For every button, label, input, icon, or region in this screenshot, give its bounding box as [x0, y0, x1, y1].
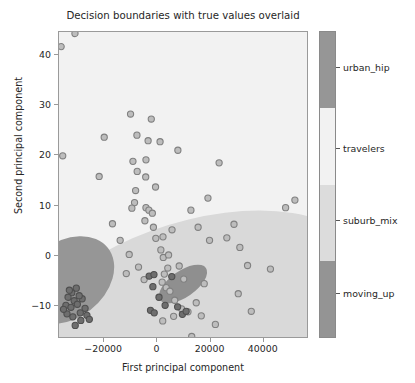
scatter-point: [165, 265, 171, 271]
y-tick-mark: [54, 255, 58, 256]
scatter-point: [248, 308, 254, 314]
scatter-point-dark: [169, 273, 175, 279]
scatter-point: [123, 270, 129, 276]
scatter-point: [231, 221, 237, 227]
scatter-point: [135, 264, 141, 270]
scatter-point: [157, 139, 163, 145]
y-tick-label: 40: [39, 48, 51, 59]
y-tick-mark: [54, 54, 58, 55]
x-tick-label: −20000: [84, 343, 122, 354]
page-title: Decision boundaries with true values ove…: [58, 10, 308, 21]
scatter-point-dark: [77, 310, 83, 316]
scatter-point-dark: [156, 294, 162, 300]
scatter-point: [149, 210, 155, 216]
x-tick-mark: [210, 338, 211, 342]
scatter-point: [283, 205, 289, 211]
scatter-point-dark: [78, 317, 84, 323]
scatter-point: [126, 251, 132, 257]
y-tick-label: 20: [39, 149, 51, 160]
x-tick-label: 0: [153, 343, 159, 354]
scatter-point: [172, 297, 178, 303]
scatter-point-dark: [175, 304, 181, 310]
colorbar-segment-suburb_mix[interactable]: [320, 185, 335, 262]
plot-area[interactable]: [58, 31, 308, 338]
scatter-point: [171, 313, 177, 319]
scatter-point: [160, 318, 166, 324]
scatter-point-dark: [150, 284, 156, 290]
scatter-point-dark: [72, 322, 78, 328]
scatter-point: [129, 205, 135, 211]
x-tick-label: 40000: [248, 343, 278, 354]
scatter-point-dark: [151, 310, 157, 316]
scatter-point: [167, 288, 173, 294]
scatter-point: [60, 153, 66, 159]
scatter-point: [134, 132, 140, 138]
y-tick-mark: [54, 205, 58, 206]
x-tick-mark: [263, 338, 264, 342]
scatter-point: [195, 224, 201, 230]
colorbar-segment-travelers[interactable]: [320, 108, 335, 185]
scatter-point: [143, 157, 149, 163]
scatter-point-dark: [70, 314, 76, 320]
scatter-point: [169, 227, 175, 233]
scatter-points-layer: [59, 32, 308, 338]
scatter-point-dark: [68, 304, 74, 310]
scatter-point: [224, 235, 230, 241]
scatter-point: [165, 252, 171, 258]
y-tick-mark: [54, 104, 58, 105]
y-tick-label: 10: [39, 199, 51, 210]
y-tick-label: 30: [39, 98, 51, 109]
scatter-point: [152, 184, 158, 190]
scatter-point: [130, 158, 136, 164]
scatter-point: [181, 276, 187, 282]
scatter-point-dark: [162, 302, 168, 308]
scatter-point-dark: [66, 287, 72, 293]
y-tick-mark: [54, 154, 58, 155]
scatter-point: [127, 111, 133, 117]
colorbar-tick-label-urban_hip: urban_hip: [343, 61, 390, 72]
scatter-point: [160, 234, 166, 240]
y-tick-label: −10: [31, 300, 51, 311]
scatter-point: [148, 116, 154, 122]
scatter-point-dark: [86, 316, 92, 322]
y-tick-mark: [54, 305, 58, 306]
scatter-point: [237, 244, 243, 250]
scatter-point: [206, 237, 212, 243]
scatter-point: [212, 321, 218, 327]
scatter-point: [161, 271, 167, 277]
scatter-point: [133, 187, 139, 193]
scatter-point-dark: [183, 308, 189, 314]
scatter-point-dark: [60, 306, 66, 312]
colorbar-segment-moving_up[interactable]: [320, 261, 335, 338]
scatter-point: [153, 235, 159, 241]
scatter-point: [96, 173, 102, 179]
scatter-point: [175, 147, 181, 153]
scatter-point: [201, 281, 207, 287]
x-tick-mark: [156, 338, 157, 342]
scatter-point: [145, 138, 151, 144]
colorbar-tick-mark: [336, 220, 340, 221]
colorbar-segment-urban_hip[interactable]: [320, 32, 335, 109]
y-tick-label: 0: [45, 249, 51, 260]
scatter-point: [244, 262, 250, 268]
x-axis-label: First principal component: [58, 362, 308, 373]
scatter-point-dark: [76, 293, 82, 299]
colorbar-tick-mark: [336, 67, 340, 68]
scatter-point-dark: [65, 294, 71, 300]
scatter-point: [235, 291, 241, 297]
colorbar-tick-label-moving_up: moving_up: [343, 287, 395, 298]
scatter-point: [134, 168, 140, 174]
scatter-point: [72, 32, 78, 37]
colorbar-tick-mark: [336, 293, 340, 294]
scatter-point: [150, 224, 156, 230]
scatter-point: [189, 333, 195, 338]
colorbar[interactable]: [319, 31, 336, 338]
colorbar-tick-mark: [336, 148, 340, 149]
scatter-point: [267, 266, 273, 272]
scatter-point: [158, 247, 164, 253]
scatter-point: [292, 197, 298, 203]
scatter-point: [117, 237, 123, 243]
figure-canvas: Decision boundaries with true values ove…: [0, 0, 415, 383]
scatter-point: [59, 44, 64, 50]
colorbar-tick-label-suburb_mix: suburb_mix: [343, 215, 398, 226]
